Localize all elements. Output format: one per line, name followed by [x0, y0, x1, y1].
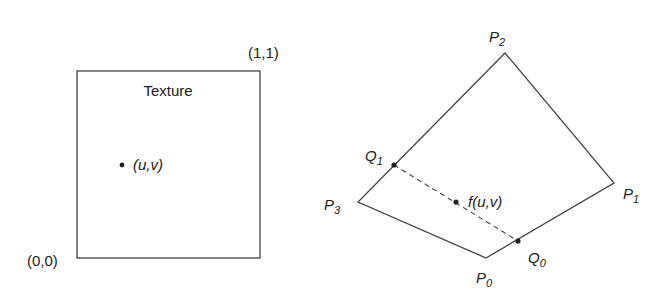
p0-label: P0	[476, 269, 493, 289]
quad-panel: P2 P1 P3 P0 Q1 Q0 f(u,v)	[324, 28, 639, 289]
f-uv-label: f(u,v)	[468, 193, 502, 210]
uv-point	[120, 163, 125, 168]
p2-label: P2	[489, 28, 505, 48]
q1-point	[391, 162, 396, 167]
texture-title: Texture	[143, 82, 192, 99]
q0-point	[515, 238, 520, 243]
p3-label: P3	[324, 196, 341, 216]
corner-origin-label: (0,0)	[27, 252, 58, 269]
quad-outline	[358, 53, 614, 258]
corner-max-label: (1,1)	[248, 44, 279, 61]
q0-label: Q0	[528, 249, 547, 269]
texture-square	[77, 71, 260, 258]
texture-panel: Texture (1,1) (0,0) (u,v)	[27, 44, 279, 269]
uv-point-label: (u,v)	[133, 156, 163, 173]
f-uv-point	[453, 199, 458, 204]
texture-mapping-diagram: Texture (1,1) (0,0) (u,v) P2 P1 P3 P0 Q1…	[0, 0, 666, 307]
p1-label: P1	[623, 185, 639, 205]
q1-label: Q1	[365, 147, 383, 167]
